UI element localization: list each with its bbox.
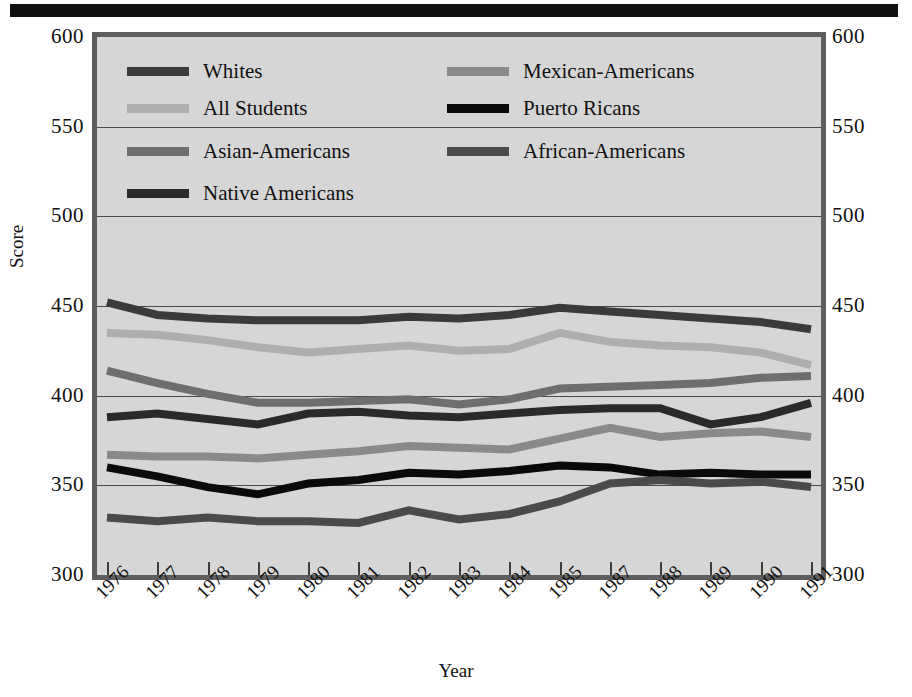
y-tick-right-500: 500 — [832, 205, 865, 226]
legend-item-whites[interactable]: Whites — [127, 61, 447, 82]
legend-label-puerto-ricans: Puerto Ricans — [523, 98, 640, 119]
y-tick-right-600: 600 — [832, 26, 865, 47]
legend-label-asian-americans: Asian-Americans — [203, 141, 350, 162]
legend-label-whites: Whites — [203, 61, 262, 82]
legend-swatch-whites — [127, 67, 189, 76]
y-tick-left-550: 550 — [51, 116, 84, 137]
plot-area: Whites Mexican-Americans All Students Pu… — [92, 32, 826, 580]
legend-swatch-all-students — [127, 104, 189, 113]
legend-item-african-americans[interactable]: African-Americans — [447, 141, 767, 162]
legend-row: All Students Puerto Ricans — [127, 90, 787, 127]
y-tick-right-400: 400 — [832, 385, 865, 406]
legend-row: Whites Mexican-Americans — [127, 53, 787, 90]
legend-item-all-students[interactable]: All Students — [127, 98, 447, 119]
y-tick-left-450: 450 — [51, 295, 84, 316]
y-tick-right-550: 550 — [832, 116, 865, 137]
series-line-all-students — [107, 333, 811, 365]
y-axis-title: Score — [6, 225, 28, 268]
y-tick-left-500: 500 — [51, 205, 84, 226]
legend-item-puerto-ricans[interactable]: Puerto Ricans — [447, 98, 767, 119]
legend-label-all-students: All Students — [203, 98, 307, 119]
y-tick-right-350: 350 — [832, 474, 865, 495]
legend-label-african-americans: African-Americans — [523, 141, 685, 162]
series-line-whites — [107, 302, 811, 329]
legend-label-native-americans: Native Americans — [203, 183, 354, 204]
series-line-mexican-americans — [107, 428, 811, 459]
legend-swatch-asian-americans — [127, 147, 189, 156]
legend-row: Asian-Americans African-Americans — [127, 127, 787, 175]
y-tick-left-300: 300 — [51, 564, 84, 585]
x-axis-title: Year — [0, 660, 912, 682]
legend-row: Native Americans — [127, 175, 787, 212]
series-line-asian-americans — [107, 371, 811, 405]
legend-item-native-americans[interactable]: Native Americans — [127, 183, 447, 204]
legend-swatch-native-americans — [127, 189, 189, 198]
chart-figure: Score 3003003503504004004504505005005505… — [0, 0, 912, 697]
legend-label-mexican-americans: Mexican-Americans — [523, 61, 694, 82]
legend-swatch-african-americans — [447, 147, 509, 156]
legend: Whites Mexican-Americans All Students Pu… — [127, 53, 787, 212]
legend-swatch-puerto-ricans — [447, 104, 509, 113]
plot-inner: Whites Mexican-Americans All Students Pu… — [97, 37, 821, 575]
y-tick-left-400: 400 — [51, 385, 84, 406]
y-tick-right-300: 300 — [832, 564, 865, 585]
y-tick-left-600: 600 — [51, 26, 84, 47]
y-tick-right-450: 450 — [832, 295, 865, 316]
legend-item-asian-americans[interactable]: Asian-Americans — [127, 141, 447, 162]
y-tick-left-350: 350 — [51, 474, 84, 495]
legend-item-mexican-americans[interactable]: Mexican-Americans — [447, 61, 767, 82]
legend-swatch-mexican-americans — [447, 67, 509, 76]
